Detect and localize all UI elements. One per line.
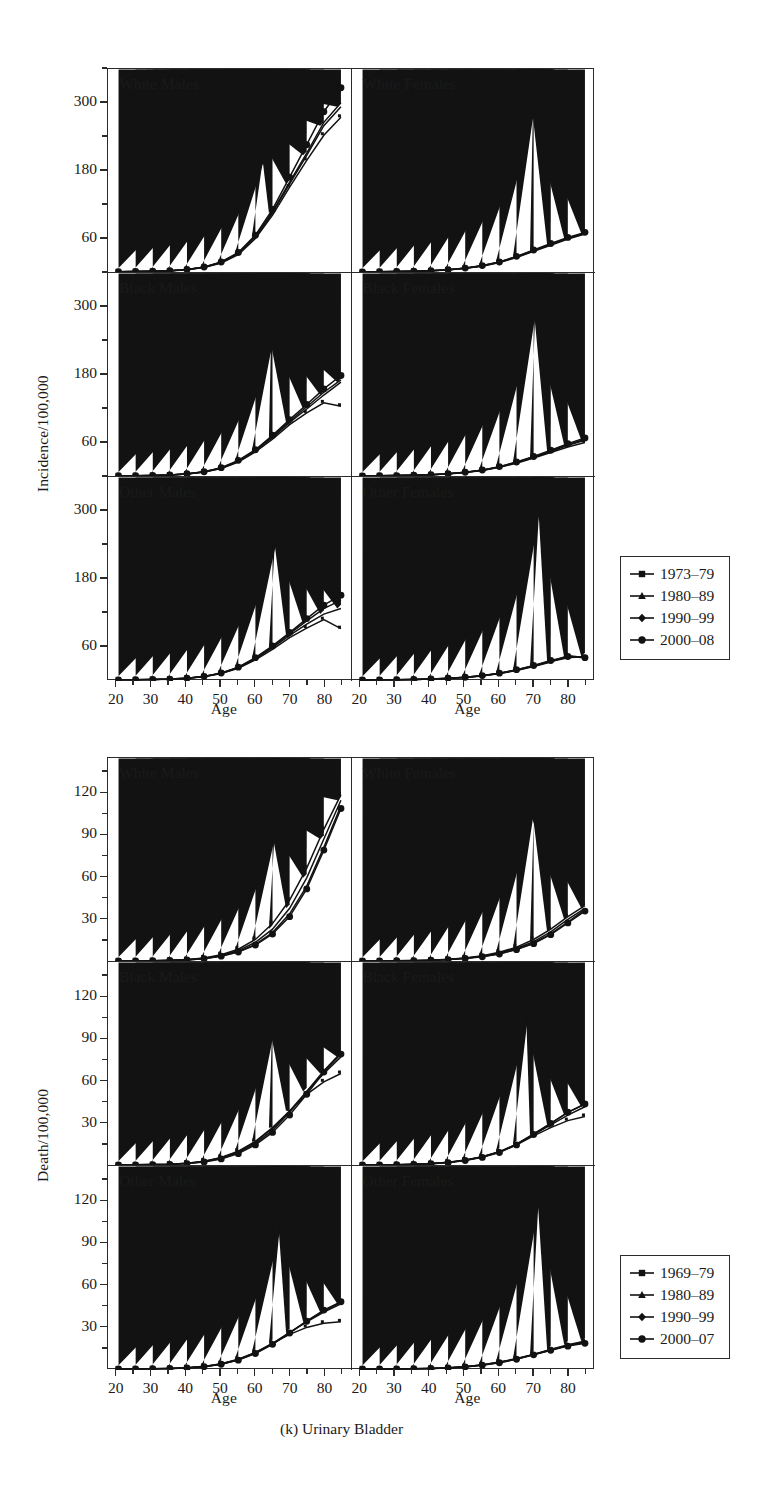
x-tick-mark-minor	[515, 1369, 516, 1374]
x-tick-mark-minor	[480, 1369, 481, 1374]
figure-caption: (k) Urinary Bladder	[280, 1420, 403, 1438]
panel-label: Black Females	[363, 968, 455, 986]
x-tick-mark	[115, 680, 116, 687]
panel-label: Black Females	[363, 279, 455, 297]
y-tick-mark	[102, 855, 107, 856]
x-tick-mark-minor	[272, 1369, 273, 1374]
y-tick-mark	[100, 792, 107, 793]
x-tick-mark	[254, 1369, 255, 1376]
y-tick-label: 90	[45, 1028, 97, 1046]
y-tick-mark	[102, 135, 107, 136]
legend-marker-circle-icon	[629, 1331, 655, 1347]
x-tick-mark	[289, 1369, 290, 1376]
x-tick-mark-minor	[306, 1369, 307, 1374]
y-tick-label: 120	[45, 782, 97, 800]
y-tick-mark	[102, 897, 107, 898]
legend-label: 2000–07	[660, 1330, 714, 1348]
x-tick-label: 80	[548, 690, 588, 708]
x-tick-mark	[463, 680, 464, 687]
panel-label: Other Males	[119, 483, 196, 501]
legend-row: 1990–99	[629, 1306, 719, 1328]
x-tick-mark	[115, 1369, 116, 1376]
death-x-axis-title-left: Age	[211, 1389, 237, 1407]
x-tick-mark-minor	[202, 1369, 203, 1374]
y-tick-mark	[100, 996, 107, 997]
panel-black-males: Black Males	[108, 273, 352, 477]
y-tick-mark	[100, 645, 107, 646]
x-tick-mark-minor	[376, 680, 377, 685]
y-tick-mark	[102, 1221, 107, 1222]
x-tick-mark	[532, 1369, 533, 1376]
y-tick-label: 90	[45, 1232, 97, 1250]
y-tick-mark	[102, 271, 107, 272]
y-tick-label: 60	[45, 1275, 97, 1293]
panel-label: Other Females	[363, 1172, 454, 1190]
panel-white-males: White Males	[108, 69, 352, 273]
x-tick-mark	[150, 680, 151, 687]
death-figure: Death/100,000 White MalesWhite FemalesBl…	[0, 710, 762, 1410]
x-tick-mark	[359, 680, 360, 687]
panel-label: White Males	[119, 75, 199, 93]
panel-white-females: White Females	[352, 758, 596, 962]
y-tick-mark	[100, 1200, 107, 1201]
x-tick-mark-minor	[341, 680, 342, 685]
x-tick-mark-minor	[585, 1369, 586, 1374]
series-plot	[352, 758, 596, 962]
y-tick-mark	[100, 373, 107, 374]
x-tick-mark-minor	[411, 680, 412, 685]
panel-black-females: Black Females	[352, 962, 596, 1166]
y-tick-label: 180	[45, 568, 97, 586]
x-tick-mark	[289, 680, 290, 687]
x-tick-mark-minor	[132, 680, 133, 685]
y-tick-mark	[102, 1101, 107, 1102]
legend-label: 1973–79	[660, 565, 714, 583]
series-plot	[108, 962, 352, 1166]
y-tick-mark	[102, 1263, 107, 1264]
y-tick-mark	[100, 305, 107, 306]
legend-label: 1980–89	[660, 587, 714, 605]
death-legend: 1969–791980–891990–992000–07	[620, 1255, 730, 1359]
series-plot	[352, 69, 596, 273]
legend-row: 1980–89	[629, 585, 719, 607]
y-tick-mark	[100, 101, 107, 102]
y-tick-mark	[100, 577, 107, 578]
y-tick-mark	[102, 1017, 107, 1018]
x-tick-mark-minor	[341, 1369, 342, 1374]
y-tick-mark	[100, 1326, 107, 1327]
y-tick-label: 60	[45, 636, 97, 654]
y-tick-mark	[100, 1242, 107, 1243]
y-tick-label: 120	[45, 1190, 97, 1208]
y-tick-label: 60	[45, 867, 97, 885]
legend-row: 1990–99	[629, 607, 719, 629]
y-tick-mark	[100, 876, 107, 877]
y-tick-mark	[100, 441, 107, 442]
legend-row: 2000–07	[629, 1328, 719, 1350]
panel-label: White Females	[363, 75, 456, 93]
legend-label: 1990–99	[660, 1308, 714, 1326]
legend-marker-circle-icon	[629, 632, 655, 648]
x-tick-mark-minor	[376, 1369, 377, 1374]
x-tick-mark	[254, 680, 255, 687]
y-tick-mark	[100, 1080, 107, 1081]
y-tick-mark	[100, 834, 107, 835]
x-tick-mark	[393, 1369, 394, 1376]
x-tick-mark-minor	[237, 1369, 238, 1374]
series-plot	[108, 758, 352, 962]
x-tick-mark-minor	[550, 680, 551, 685]
panel-white-males: White Males	[108, 758, 352, 962]
x-tick-mark-minor	[272, 680, 273, 685]
y-tick-mark	[102, 339, 107, 340]
y-tick-mark	[100, 1038, 107, 1039]
death-x-axis-title-right: Age	[454, 1389, 480, 1407]
x-tick-mark	[185, 680, 186, 687]
y-tick-label: 180	[45, 160, 97, 178]
x-tick-mark	[498, 680, 499, 687]
figure-root: Incidence/100,000 White MalesWhite Femal…	[0, 0, 762, 1485]
legend-row: 1973–79	[629, 563, 719, 585]
legend-marker-square-icon	[629, 1265, 655, 1281]
legend-row: 1980–89	[629, 1284, 719, 1306]
x-tick-mark-minor	[306, 680, 307, 685]
x-tick-mark	[498, 1369, 499, 1376]
series-plot	[352, 962, 596, 1166]
x-tick-mark	[359, 1369, 360, 1376]
